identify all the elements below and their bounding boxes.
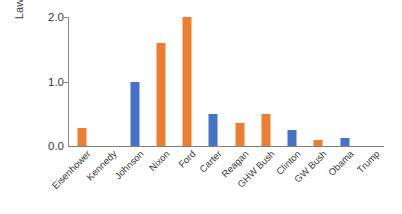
bar-eisenhower[interactable] [78,128,87,146]
bar-slot [358,17,384,146]
bar-slot [332,17,358,146]
bar-obama[interactable] [340,138,349,146]
bar-slot [148,17,174,146]
bar-slot [253,17,279,146]
x-axis-tick-labels: EisenhowerKennedyJohnsonNixonFordCarterR… [68,148,384,214]
bar-nixon[interactable] [156,43,165,146]
bar-slot [279,17,305,146]
bar-chart-figure: Laws per year 0.01.02.0 EisenhowerKenned… [0,0,402,214]
bar-slot [122,17,148,146]
y-axis-tick-label: 0.0 [32,140,64,152]
bar-clinton[interactable] [288,130,297,146]
plot-area [69,17,384,146]
bar-slot [200,17,226,146]
y-axis-tick-mark [64,82,69,83]
bar-slot [95,17,121,146]
x-axis-tick-label-trump: Trump [355,148,382,175]
bar-slot [174,17,200,146]
y-axis-tick-label: 1.0 [32,76,64,88]
chart-axes [68,17,384,146]
x-axis-tick-label-nixon: Nixon [147,148,172,173]
bar-slot [305,17,331,146]
bar-reagan[interactable] [235,123,244,146]
bar-ford[interactable] [183,17,192,146]
bar-carter[interactable] [209,114,218,146]
y-axis-tick-label: 2.0 [32,11,64,23]
bar-slot [69,17,95,146]
bar-ghw-bush[interactable] [261,114,270,146]
y-axis-tick-mark [64,17,69,18]
x-axis-tick-label-obama: Obama [325,148,355,178]
y-axis-title: Laws per year [8,0,30,40]
bar-gw-bush[interactable] [314,140,323,146]
bar-johnson[interactable] [130,82,139,147]
x-axis-tick-label-ford: Ford [176,148,198,170]
bar-slot [227,17,253,146]
